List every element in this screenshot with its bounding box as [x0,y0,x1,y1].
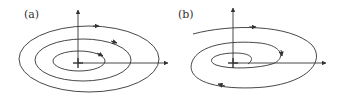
panel-a: (a) [19,8,168,92]
panel-b-label: (b) [178,8,194,21]
arrow-middle [111,41,117,43]
orbit-outer [19,26,159,92]
spiral-trajectory [191,28,316,88]
panel-a-label: (a) [24,8,39,21]
phase-portraits: (a) (b) [0,0,344,96]
orbit-inner [53,51,105,71]
orbit-middle [35,39,131,81]
panel-b: (b) [178,8,326,88]
arrow-right [281,50,282,56]
